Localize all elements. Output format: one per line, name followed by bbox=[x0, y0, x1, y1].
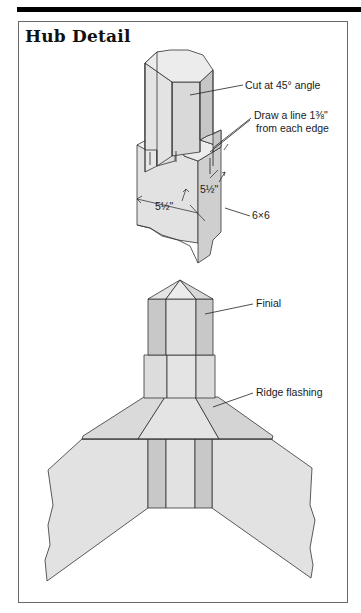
dimension-width-label: 5½" bbox=[155, 200, 174, 212]
callout-cut-angle: Cut at 45° angle bbox=[245, 79, 321, 91]
ridge-flashing bbox=[82, 397, 273, 439]
roof-panels bbox=[45, 439, 315, 581]
callout-draw-line-1: Draw a line 1⅜" bbox=[254, 109, 328, 121]
hub-diagram: Cut at 45° angle Draw a line 1⅜" from ea… bbox=[0, 0, 361, 613]
callout-draw-line-2: from each edge bbox=[256, 122, 329, 134]
callout-post-size: 6×6 bbox=[252, 209, 270, 221]
finial bbox=[144, 280, 215, 398]
dimension-depth-label: 5½" bbox=[200, 183, 219, 195]
callout-ridge-flashing: Ridge flashing bbox=[256, 386, 323, 398]
callout-finial: Finial bbox=[256, 297, 281, 309]
